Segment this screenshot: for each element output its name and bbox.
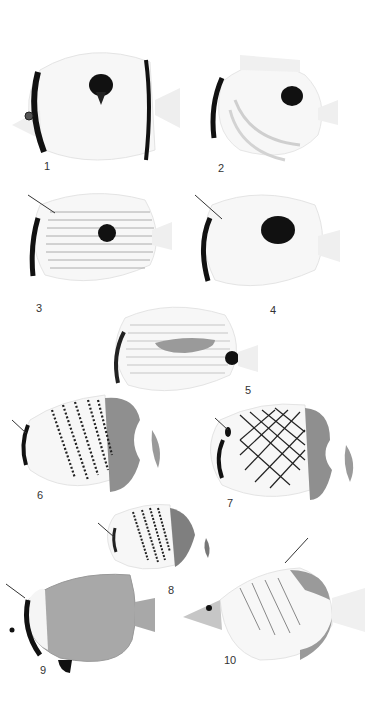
figure-label-10: 10 [224,654,236,666]
fish-8 [98,504,210,569]
figure-label-9: 9 [40,664,46,676]
fish-plate: 1 2 3 4 5 6 7 8 9 10 [0,0,382,721]
fish-10 [183,538,365,660]
figure-label-7: 7 [227,497,233,509]
fish-3 [28,194,172,281]
fish-5 [116,307,258,390]
figure-label-6: 6 [37,489,43,501]
figure-label-2: 2 [218,162,224,174]
figure-label-1: 1 [44,160,50,172]
illustration-canvas [0,0,382,721]
figure-label-3: 3 [36,302,42,314]
fish-2 [213,55,338,160]
figure-label-4: 4 [270,304,276,316]
fish-7 [210,404,353,500]
figure-label-5: 5 [245,384,251,396]
figure-label-8: 8 [168,584,174,596]
fish-9 [6,574,155,673]
fish-6 [12,395,160,492]
fish-1 [12,53,180,160]
fish-4 [195,195,340,286]
